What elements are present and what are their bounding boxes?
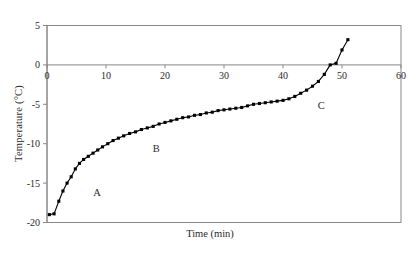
annotation-c: C [318,100,325,111]
plot-background [0,0,420,255]
svg-text:30: 30 [219,70,229,81]
svg-text:50: 50 [337,70,347,81]
svg-text:-10: -10 [27,138,40,149]
x-axis-label: Time (min) [0,228,420,239]
svg-text:10: 10 [101,70,111,81]
y-axis-label: Temperature (°C) [13,54,24,194]
svg-text:60: 60 [396,70,406,81]
svg-text:20: 20 [160,70,170,81]
svg-text:5: 5 [35,20,40,31]
annotation-b: B [153,143,160,154]
svg-text:0: 0 [35,59,40,70]
chart-figure: Temperature (°C) Time (min) 010203040506… [0,0,420,255]
annotation-a: A [93,187,101,198]
svg-text:-5: -5 [32,99,40,110]
svg-text:-20: -20 [27,217,40,228]
svg-text:-15: -15 [27,178,40,189]
temperature-time-plot: 0102030405060 50-5-10-15-20 A B C [0,0,420,255]
svg-text:40: 40 [278,70,288,81]
svg-text:0: 0 [45,70,50,81]
